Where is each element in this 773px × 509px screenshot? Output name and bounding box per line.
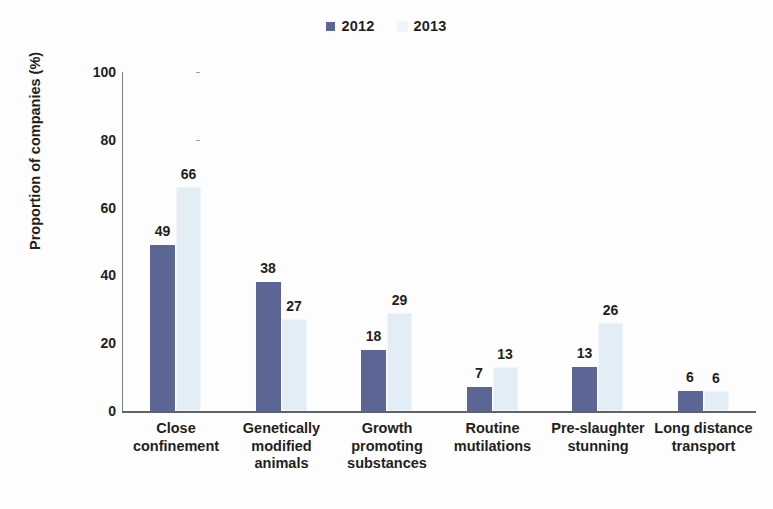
bar-value-label: 27	[286, 298, 302, 314]
x-axis-label-line: Growth	[331, 420, 443, 438]
bar-value-label: 6	[712, 370, 720, 386]
x-axis-label-4: Pre-slaughterstunning	[542, 420, 654, 455]
x-axis-label-line: Pre-slaughter	[542, 420, 654, 438]
bar-value-label: 29	[392, 292, 408, 308]
bar-value-label: 13	[497, 346, 513, 362]
x-axis-label-line: Routine	[437, 420, 549, 438]
x-axis-label-line: stunning	[542, 438, 654, 456]
bar-group: 3827	[256, 72, 308, 411]
x-axis-line	[122, 411, 756, 413]
bar-2012-5[interactable]: 6	[678, 391, 703, 411]
bar-2013-5[interactable]: 6	[704, 391, 729, 411]
x-axis-label-5: Long distancetransport	[648, 420, 760, 455]
y-axis-ticks: 100806040200	[78, 0, 116, 509]
legend-label-2013: 2013	[414, 18, 447, 34]
legend-item-2012: 2012	[326, 18, 374, 34]
bar-2013-2[interactable]: 29	[387, 313, 412, 411]
y-axis-title: Proportion of companies (%)	[27, 70, 43, 250]
x-axis-label-line: promoting	[331, 438, 443, 456]
legend-swatch-icon-2012	[326, 22, 335, 31]
bar-group: 1326	[572, 72, 624, 411]
y-axis-tick-label: 100	[80, 64, 116, 80]
bar-group: 1829	[361, 72, 413, 411]
bar-value-label: 7	[475, 365, 483, 381]
legend-swatch-icon-2013	[397, 21, 408, 32]
y-axis-tick-label: 0	[80, 403, 116, 419]
x-axis-label-0: Closeconfinement	[120, 420, 232, 455]
bar-chart: 2012 2013 Proportion of companies (%) 10…	[0, 0, 773, 509]
x-axis-label-line: Close	[120, 420, 232, 438]
bar-value-label: 66	[181, 166, 197, 182]
x-axis-label-3: Routinemutilations	[437, 420, 549, 455]
legend-label-2012: 2012	[341, 18, 374, 34]
x-axis-label-2: Growthpromotingsubstances	[331, 420, 443, 473]
bar-group: 66	[678, 72, 730, 411]
bar-2013-1[interactable]: 27	[282, 319, 307, 411]
legend-item-2013: 2013	[397, 18, 447, 34]
x-axis-label-1: Geneticallymodifiedanimals	[226, 420, 338, 473]
bar-value-label: 49	[155, 223, 171, 239]
plot-area: 496638271829713132666	[122, 72, 756, 411]
bar-2012-1[interactable]: 38	[256, 282, 281, 411]
bar-2012-0[interactable]: 49	[150, 245, 175, 411]
bar-2012-3[interactable]: 7	[467, 387, 492, 411]
bar-group: 4966	[150, 72, 202, 411]
x-axis-label-line: substances	[331, 455, 443, 473]
bar-2012-2[interactable]: 18	[361, 350, 386, 411]
y-axis-tick-label: 40	[80, 267, 116, 283]
y-axis-tick-label: 80	[80, 132, 116, 148]
bar-value-label: 13	[577, 345, 593, 361]
y-axis-tick-label: 60	[80, 200, 116, 216]
bar-value-label: 6	[686, 369, 694, 385]
x-axis-label-line: Genetically	[226, 420, 338, 438]
x-axis-label-line: mutilations	[437, 438, 549, 456]
bar-2013-3[interactable]: 13	[493, 367, 518, 411]
x-axis-label-line: modified	[226, 438, 338, 456]
x-axis-label-line: transport	[648, 438, 760, 456]
bar-2012-4[interactable]: 13	[572, 367, 597, 411]
bar-value-label: 26	[603, 302, 619, 318]
bar-value-label: 38	[260, 260, 276, 276]
x-axis-label-line: animals	[226, 455, 338, 473]
x-axis-label-line: confinement	[120, 438, 232, 456]
bar-value-label: 18	[366, 328, 382, 344]
bar-2013-4[interactable]: 26	[598, 323, 623, 411]
x-axis-label-line: Long distance	[648, 420, 760, 438]
y-axis-tick-label: 20	[80, 335, 116, 351]
bar-2013-0[interactable]: 66	[176, 187, 201, 411]
bar-group: 713	[467, 72, 519, 411]
